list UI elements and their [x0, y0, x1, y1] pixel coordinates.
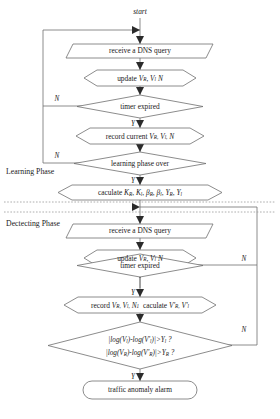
- arrowhead-to-record2: [136, 289, 144, 297]
- arrowhead-to-threshold: [136, 314, 144, 322]
- phase-label-layer: Learning Phase Dectecting Phase: [6, 167, 60, 228]
- arrowhead-to-alarm: [136, 373, 144, 381]
- arrowhead-loop-right-join: [132, 203, 140, 211]
- flowchart-canvas: start receive a DNS query update VR, Vl …: [0, 0, 280, 419]
- branch-label-timer1-no: N: [54, 95, 61, 103]
- arrowhead-to-recv1: [136, 36, 144, 44]
- branch-label-timer2-yes: Y: [131, 289, 136, 297]
- arrowhead-to-record1: [136, 120, 144, 128]
- label-learning-phase-over: learning phase over: [111, 159, 169, 168]
- arrowhead-to-recv2: [136, 216, 144, 224]
- label-traffic-anomaly-alarm: traffic anomaly alarm: [108, 385, 172, 394]
- start-label: start: [133, 7, 148, 16]
- label-receive-dns-query-2: receive a DNS query: [109, 226, 171, 235]
- branch-label-threshold-yes: Y: [131, 373, 136, 381]
- label-timer-expired-1: timer expired: [120, 102, 160, 111]
- phase-label-detecting: Dectecting Phase: [6, 219, 60, 228]
- arrowhead-to-timer1: [136, 87, 144, 95]
- label-record-and-caculate: record VR, Vl, N1 caculate V′R, V′l: [91, 300, 190, 309]
- arrowhead-to-phaseover: [136, 144, 144, 152]
- branch-label-phaseover-no: N: [54, 152, 61, 160]
- label-threshold-condition-line1: |log(Vl)-log(V′l)|>Yl ?: [108, 336, 172, 344]
- node-shape-threshold-condition[interactable]: [48, 322, 232, 369]
- label-timer-expired-2: timer expired: [120, 261, 160, 270]
- branch-label-timer1-yes: Y: [131, 120, 136, 128]
- label-threshold-condition-line2: |log(VR)-log(V′R)|>YR ?: [106, 349, 175, 357]
- label-receive-dns-query-1: receive a DNS query: [109, 46, 171, 55]
- arrowhead-loop-top-join: [132, 26, 140, 34]
- arrowhead-to-caculate: [136, 177, 144, 185]
- branch-label-timer2-no: N: [241, 255, 248, 263]
- label-update-vars-1: update VR, Vl N: [117, 73, 164, 82]
- flowchart-diagram: start receive a DNS query update VR, Vl …: [0, 0, 280, 419]
- branch-label-phaseover-yes: Y: [131, 177, 136, 185]
- arrowhead-to-update1: [136, 62, 144, 70]
- phase-label-learning: Learning Phase: [6, 167, 55, 176]
- arrowhead-to-update2: [136, 242, 144, 250]
- branch-label-threshold-no: N: [241, 326, 248, 334]
